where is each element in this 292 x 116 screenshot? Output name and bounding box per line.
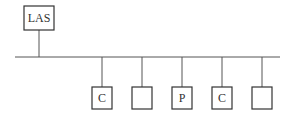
device-node-label: P [179, 91, 186, 105]
device-node-box [132, 87, 152, 109]
network-diagram: LAS CPC [0, 0, 292, 116]
device-node-label: C [98, 91, 106, 105]
device-node-label: C [218, 91, 226, 105]
device-node-box [252, 87, 272, 109]
las-node-label: LAS [28, 11, 51, 25]
